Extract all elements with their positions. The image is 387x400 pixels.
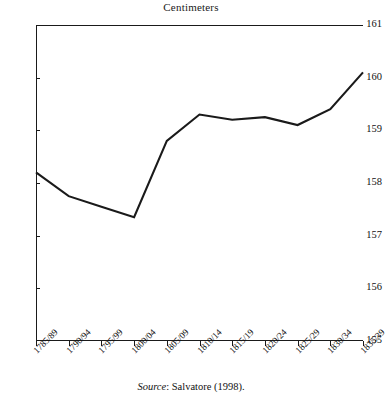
y-axis-tick-mark [36, 183, 40, 184]
y-axis-tick-mark [36, 130, 40, 131]
y-axis-tick-label: 160 [356, 72, 382, 82]
source-note: Source: Salvatore (1998). [0, 381, 382, 392]
y-axis-tick-mark [36, 236, 40, 237]
y-axis-tick-mark [36, 78, 40, 79]
y-axis-tick-label: 158 [356, 177, 382, 187]
y-axis-tick-label: 161 [356, 19, 382, 29]
source-label: Source [137, 381, 166, 392]
data-line-series-height [36, 72, 363, 217]
source-citation: : Salvatore (1998). [166, 381, 244, 392]
y-axis-tick-mark [36, 288, 40, 289]
y-axis-tick-label: 157 [356, 230, 382, 240]
y-axis-tick-label: 159 [356, 124, 382, 134]
y-axis-tick-label: 156 [356, 282, 382, 292]
